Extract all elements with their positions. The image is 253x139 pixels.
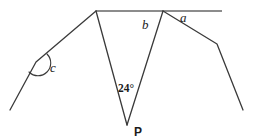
geometry-canvas: c b a 24° P <box>0 0 253 139</box>
point-label-p: P <box>134 125 142 139</box>
figure-background <box>0 0 253 139</box>
geometry-figure: c b a 24° P <box>0 0 253 139</box>
angle-label-a: a <box>180 10 187 25</box>
angle-measure-24: 24° <box>118 82 135 94</box>
angle-label-c: c <box>50 60 56 75</box>
angle-label-b: b <box>142 17 149 32</box>
